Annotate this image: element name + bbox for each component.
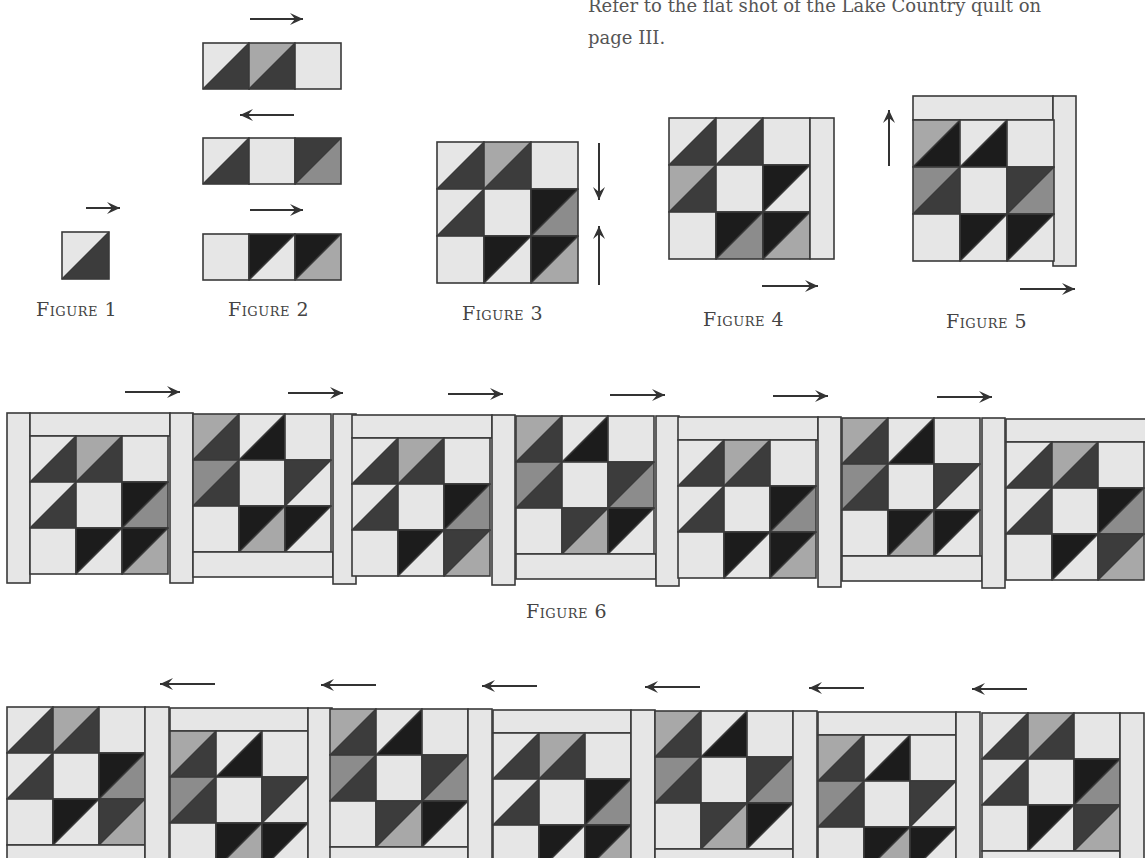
figure-4-caption: Figure 4 [703,308,784,330]
square-patch [960,167,1007,214]
sashing-strip [982,418,1005,588]
square-patch [888,464,934,510]
figure-6-caption: Figure 6 [526,600,607,622]
sashing-strip [818,712,956,735]
square-patch [1074,713,1120,759]
square-patch [982,805,1028,851]
square-patch [30,528,76,574]
square-patch [376,755,422,801]
square-patch [678,532,724,578]
square-patch [122,436,168,482]
square-patch [770,440,816,486]
square-patch [262,731,308,777]
square-patch [864,781,910,827]
square-patch [608,416,654,462]
square-patch [1028,759,1074,805]
square-patch [655,803,701,849]
sashing-strip [7,845,145,858]
sashing-strip [193,552,333,577]
sashing-strip [7,413,30,583]
figure-3-caption: Figure 3 [462,302,543,324]
square-patch [516,508,562,554]
sashing-strip [678,417,818,440]
square-patch [422,709,468,755]
sashing-strip [913,96,1053,120]
square-patch [76,482,122,528]
square-patch [398,484,444,530]
sashing-strip [1053,96,1076,266]
square-patch [1006,534,1052,580]
square-patch [747,711,793,757]
sashing-strip [330,847,468,858]
square-patch [239,460,285,506]
sashing-strip [793,711,817,858]
patch [203,234,249,280]
sashing-strip [842,556,982,581]
square-patch [818,827,864,858]
square-patch [1052,488,1098,534]
square-patch [216,777,262,823]
sashing-strip [1006,419,1145,442]
square-patch [1098,442,1144,488]
square-patch [910,735,956,781]
sashing-strip [352,415,492,438]
quilt-diagrams [0,0,1145,858]
square-patch [285,414,331,460]
sashing-strip [170,413,193,583]
square-patch [170,823,216,858]
square-patch [539,779,585,825]
square-patch [53,753,99,799]
sashing-strip [818,417,841,587]
figure-5-caption: Figure 5 [946,310,1027,332]
sashing-strip [810,118,834,259]
square-patch [330,801,376,847]
patch [249,138,295,184]
square-patch [437,236,484,283]
sashing-strip [468,709,492,858]
sashing-strip [493,710,631,733]
sashing-strip [655,849,793,858]
sashing-strip [656,416,679,586]
square-patch [1007,120,1054,167]
sashing-strip [30,413,170,436]
square-patch [7,799,53,845]
sashing-strip [516,554,656,579]
square-patch [763,118,810,165]
sashing-strip [145,707,169,858]
square-patch [913,214,960,261]
square-patch [562,462,608,508]
square-patch [444,438,490,484]
square-patch [493,825,539,858]
square-patch [99,707,145,753]
square-patch [716,165,763,212]
square-patch [585,733,631,779]
patch [295,43,341,89]
square-patch [724,486,770,532]
square-patch [531,142,578,189]
square-patch [842,510,888,556]
sashing-strip [631,710,655,858]
square-patch [352,530,398,576]
square-patch [193,506,239,552]
square-patch [934,418,980,464]
square-patch [669,212,716,259]
sashing-strip [492,415,515,585]
sashing-strip [170,708,308,731]
figure-2-caption: Figure 2 [228,298,309,320]
sashing-strip [982,851,1120,858]
sashing-strip [1120,713,1144,858]
square-patch [701,757,747,803]
figure-1-caption: Figure 1 [36,298,117,320]
sashing-strip [956,712,980,858]
sashing-strip [308,708,332,858]
square-patch [484,189,531,236]
